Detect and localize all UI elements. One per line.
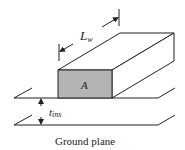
ground-plane: [14, 115, 175, 125]
wire: [58, 33, 174, 98]
insulation-label: tins: [49, 106, 61, 119]
cross-section-label: A: [80, 79, 88, 91]
ground-plane-label: Ground plane: [55, 135, 115, 147]
wire-diagram: Lw A tins Ground plane: [0, 0, 185, 150]
length-label: Lw: [79, 28, 93, 44]
